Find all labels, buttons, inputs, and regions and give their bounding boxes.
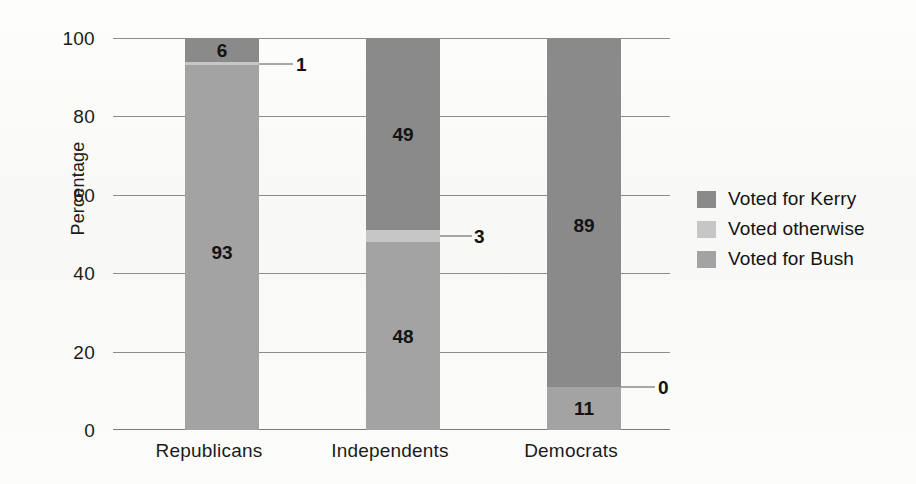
bar-independents[interactable]: 49 48 (366, 38, 440, 430)
y-tick-20: 20 (73, 342, 95, 361)
x-label-democrats: Democrats (475, 440, 667, 462)
leader-line-republicans-otherwise (259, 63, 293, 64)
legend-swatch-otherwise-icon (697, 221, 716, 238)
x-label-republicans: Republicans (113, 440, 305, 462)
bar-republicans[interactable]: 6 93 (185, 38, 259, 430)
segment-label-independents-kerry: 49 (366, 125, 440, 144)
leader-line-democrats-otherwise (621, 386, 655, 387)
y-tick-60: 60 (73, 185, 95, 204)
segment-independents-bush[interactable]: 48 (366, 242, 440, 430)
x-label-independents: Independents (294, 440, 486, 462)
legend-swatch-kerry-icon (697, 191, 716, 208)
segment-democrats-bush[interactable]: 11 (547, 387, 621, 430)
legend-label-kerry: Voted for Kerry (728, 188, 856, 210)
legend-swatch-bush-icon (697, 251, 716, 268)
legend-item-otherwise[interactable]: Voted otherwise (697, 216, 865, 242)
segment-label-republicans-bush: 93 (185, 243, 259, 262)
segment-independents-kerry[interactable]: 49 (366, 38, 440, 230)
segment-independents-otherwise[interactable] (366, 230, 440, 242)
segment-republicans-bush[interactable]: 93 (185, 65, 259, 430)
legend: Voted for Kerry Voted otherwise Voted fo… (697, 186, 865, 276)
y-tick-0: 0 (84, 421, 95, 440)
legend-label-otherwise: Voted otherwise (728, 218, 865, 240)
segment-label-independents-bush: 48 (366, 326, 440, 345)
callout-republicans-otherwise: 1 (296, 55, 307, 74)
segment-label-republicans-kerry: 6 (185, 40, 259, 59)
segment-label-democrats-bush: 11 (547, 399, 621, 418)
y-tick-80: 80 (73, 107, 95, 126)
y-axis-tick-labels: 100 80 60 40 20 0 (55, 38, 95, 430)
callout-independents-otherwise: 3 (474, 227, 485, 246)
leader-line-independents-otherwise (440, 236, 472, 237)
legend-item-kerry[interactable]: Voted for Kerry (697, 186, 865, 212)
y-tick-40: 40 (73, 264, 95, 283)
segment-republicans-kerry[interactable]: 6 (185, 38, 259, 62)
segment-democrats-kerry[interactable]: 89 (547, 38, 621, 387)
bar-democrats[interactable]: 89 11 (547, 38, 621, 430)
legend-label-bush: Voted for Bush (728, 248, 854, 270)
legend-item-bush[interactable]: Voted for Bush (697, 246, 865, 272)
segment-label-democrats-kerry: 89 (547, 216, 621, 235)
chart-screenshot: Percentage 100 80 60 40 20 0 6 93 1 (0, 0, 916, 484)
callout-democrats-otherwise: 0 (658, 378, 669, 397)
y-tick-100: 100 (62, 29, 95, 48)
plot-area: 6 93 1 49 48 3 89 (113, 38, 670, 430)
